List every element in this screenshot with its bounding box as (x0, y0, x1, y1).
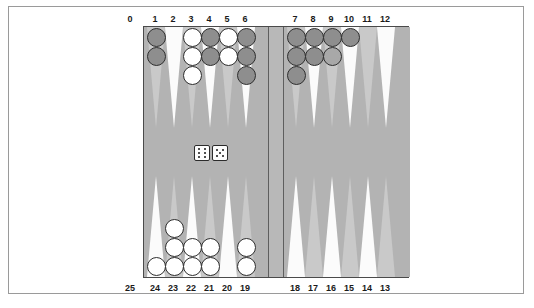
top-number-12: 12 (377, 12, 393, 26)
die-pip (219, 152, 221, 154)
die-2[interactable] (212, 145, 228, 161)
top-number-2: 2 (165, 12, 181, 26)
top-number-5: 5 (219, 12, 235, 26)
die-pip (204, 152, 206, 154)
checker-point-22[interactable] (183, 238, 202, 257)
point-20[interactable] (219, 176, 237, 277)
checker-point-23[interactable] (165, 238, 184, 257)
bottom-number-14: 14 (359, 281, 375, 295)
die-pip (216, 155, 218, 157)
bottom-number-21: 21 (201, 281, 217, 295)
checker-point-23[interactable] (165, 219, 184, 238)
checker-point-5[interactable] (219, 28, 238, 47)
point-14[interactable] (359, 176, 377, 277)
bottom-number-13: 13 (377, 281, 393, 295)
bottom-number-25: 25 (122, 281, 138, 295)
bottom-point-numbers: 25242322212019181716151413 (0, 281, 534, 295)
checker-point-3[interactable] (183, 66, 202, 85)
point-15[interactable] (341, 176, 359, 277)
die-pip (198, 148, 200, 150)
checker-point-1[interactable] (147, 28, 166, 47)
checker-point-9[interactable] (323, 28, 342, 47)
checker-point-6[interactable] (237, 47, 256, 66)
top-number-4: 4 (201, 12, 217, 26)
die-pip (204, 156, 206, 158)
top-number-1: 1 (147, 12, 163, 26)
top-number-6: 6 (237, 12, 253, 26)
checker-point-21[interactable] (201, 238, 220, 257)
checker-point-4[interactable] (201, 47, 220, 66)
checker-point-21[interactable] (201, 257, 220, 276)
top-number-11: 11 (359, 12, 375, 26)
checker-point-8[interactable] (305, 28, 324, 47)
point-16[interactable] (323, 176, 341, 277)
checker-point-19[interactable] (237, 257, 256, 276)
top-number-7: 7 (287, 12, 303, 26)
checker-point-7[interactable] (287, 47, 306, 66)
top-number-3: 3 (183, 12, 199, 26)
die-pip (222, 155, 224, 157)
checker-point-24[interactable] (147, 257, 166, 276)
bottom-number-16: 16 (323, 281, 339, 295)
bottom-number-22: 22 (183, 281, 199, 295)
top-number-8: 8 (305, 12, 321, 26)
top-point-numbers: 0123456789101112 (0, 12, 534, 26)
checker-point-9[interactable] (323, 47, 342, 66)
bottom-number-15: 15 (341, 281, 357, 295)
bottom-number-18: 18 (287, 281, 303, 295)
bottom-number-23: 23 (165, 281, 181, 295)
bottom-number-19: 19 (237, 281, 253, 295)
board-bar[interactable] (268, 27, 284, 277)
backgammon-board[interactable] (143, 26, 409, 278)
point-12[interactable] (377, 27, 395, 128)
top-number-10: 10 (341, 12, 357, 26)
checker-point-6[interactable] (237, 66, 256, 85)
point-18[interactable] (287, 176, 305, 277)
bottom-number-17: 17 (305, 281, 321, 295)
checker-point-6[interactable] (237, 28, 256, 47)
point-2[interactable] (165, 27, 183, 128)
checker-point-7[interactable] (287, 66, 306, 85)
checker-point-19[interactable] (237, 238, 256, 257)
point-11[interactable] (359, 27, 377, 128)
point-13[interactable] (377, 176, 395, 277)
die-pip (198, 156, 200, 158)
checker-point-22[interactable] (183, 257, 202, 276)
die-pip (222, 149, 224, 151)
bottom-number-20: 20 (219, 281, 235, 295)
die-pip (216, 149, 218, 151)
checker-point-4[interactable] (201, 28, 220, 47)
die-pip (198, 152, 200, 154)
top-number-0: 0 (122, 12, 138, 26)
checker-point-7[interactable] (287, 28, 306, 47)
bottom-number-24: 24 (147, 281, 163, 295)
point-17[interactable] (305, 176, 323, 277)
die-1[interactable] (194, 145, 210, 161)
checker-point-3[interactable] (183, 47, 202, 66)
checker-point-1[interactable] (147, 47, 166, 66)
checker-point-10[interactable] (341, 28, 360, 47)
checker-point-5[interactable] (219, 47, 238, 66)
die-pip (204, 148, 206, 150)
checker-point-8[interactable] (305, 47, 324, 66)
checker-point-23[interactable] (165, 257, 184, 276)
checker-point-3[interactable] (183, 28, 202, 47)
top-number-9: 9 (323, 12, 339, 26)
